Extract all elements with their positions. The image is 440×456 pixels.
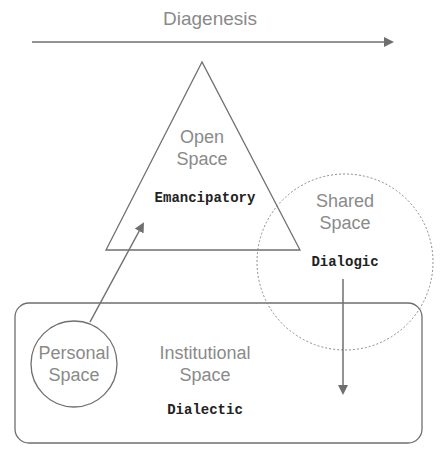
dialogic-label: Dialogic xyxy=(300,254,390,270)
shared-space-title: Shared Space xyxy=(300,190,390,234)
institutional-space-title: Institutional Space xyxy=(145,342,265,386)
personal-title-line2: Space xyxy=(30,364,118,386)
open-title-line2: Space xyxy=(152,148,252,170)
institutional-title-line1: Institutional xyxy=(145,342,265,364)
personal-space-title: Personal Space xyxy=(30,342,118,386)
shared-title-line2: Space xyxy=(300,212,390,234)
open-title-line1: Open xyxy=(152,126,252,148)
personal-title-line1: Personal xyxy=(30,342,118,364)
open-space-title: Open Space xyxy=(152,126,252,170)
diagenesis-label: Diagenesis xyxy=(140,8,280,30)
emancipatory-label: Emancipatory xyxy=(130,190,280,206)
personal-to-open-arrow xyxy=(90,224,143,322)
institutional-title-line2: Space xyxy=(145,364,265,386)
dialectic-label: Dialectic xyxy=(150,402,260,418)
shared-title-line1: Shared xyxy=(300,190,390,212)
